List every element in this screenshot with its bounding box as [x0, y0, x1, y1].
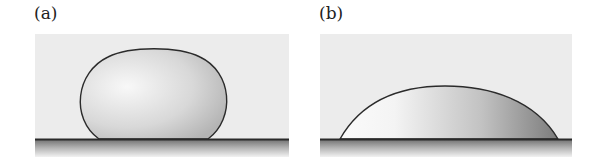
panel-a-substrate [35, 139, 289, 157]
panel-a [35, 34, 289, 157]
panel-b [320, 34, 572, 157]
panel-a-droplet [80, 49, 226, 139]
panel-b-substrate [320, 139, 572, 157]
droplet-diagram [0, 0, 602, 165]
